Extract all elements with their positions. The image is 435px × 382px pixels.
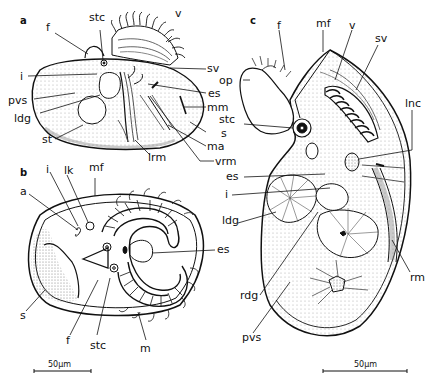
- label-c-ldg: ldg: [222, 215, 239, 226]
- label-c-i: i: [225, 189, 228, 200]
- label-a-f: f: [46, 22, 50, 33]
- panel-label-c: c: [250, 15, 256, 26]
- label-a-ma: ma: [207, 141, 224, 152]
- label-b-f: f: [66, 335, 70, 346]
- label-a-v: v: [175, 8, 182, 19]
- label-b-i: i: [46, 164, 49, 175]
- label-c-stc: stc: [219, 114, 235, 125]
- label-b-lk: lk: [64, 165, 73, 176]
- label-c-f: f: [277, 20, 281, 31]
- label-b-a: a: [20, 186, 27, 197]
- panel-b-drawing: [29, 189, 204, 321]
- panel-label-a: a: [20, 15, 27, 26]
- label-b-stc: stc: [90, 340, 106, 351]
- label-c-mf: mf: [316, 18, 331, 29]
- label-c-rm: rm: [410, 272, 425, 283]
- panel-a-drawing: [32, 11, 203, 149]
- label-c-sv: sv: [375, 33, 387, 44]
- label-c-es: es: [226, 171, 239, 182]
- label-a-st: st: [42, 134, 52, 145]
- label-c-pvs: pvs: [242, 332, 261, 343]
- label-a-sv: sv: [207, 63, 219, 74]
- label-a-i: i: [20, 71, 23, 82]
- label-c-op: op: [219, 75, 233, 86]
- panel-label-b: b: [20, 167, 27, 178]
- label-c-lnc: lnc: [405, 98, 421, 109]
- scale-label-b: 50µm: [48, 359, 71, 370]
- label-b-s: s: [20, 310, 26, 321]
- scale-label-c: 50µm: [354, 359, 377, 370]
- label-a-es: es: [208, 88, 221, 99]
- label-b-es: es: [217, 244, 230, 255]
- label-a-pvs: pvs: [8, 95, 27, 106]
- label-b-mf: mf: [89, 162, 104, 173]
- label-a-stc: stc: [89, 12, 105, 23]
- label-a-mm: mm: [207, 102, 228, 113]
- label-a-lrm: lrm: [148, 152, 166, 163]
- label-c-v: v: [349, 20, 356, 31]
- label-a-ldg: ldg: [14, 113, 31, 124]
- label-a-vrm: vrm: [215, 156, 237, 167]
- figure-drawing: [0, 0, 435, 382]
- label-c-rdg: rdg: [240, 290, 258, 301]
- label-b-m: m: [140, 343, 151, 354]
- label-a-s: s: [221, 128, 227, 139]
